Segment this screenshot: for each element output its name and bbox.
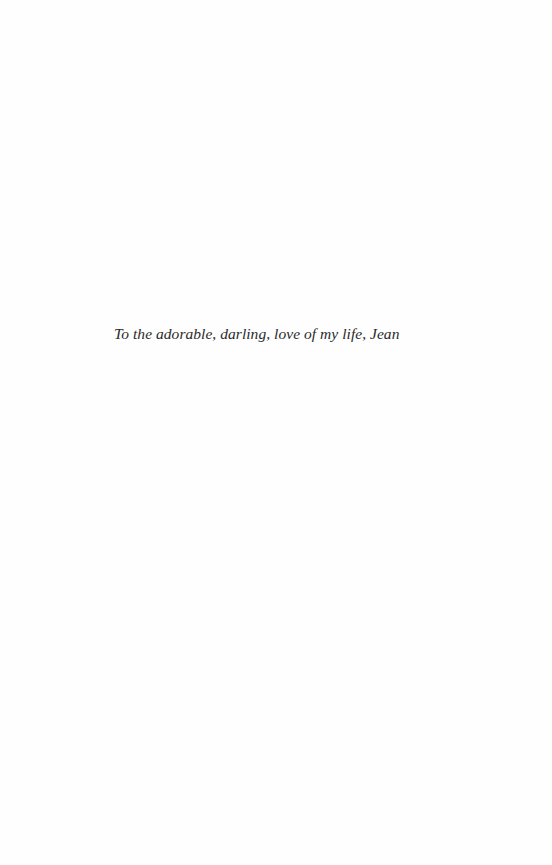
dedication-text: To the adorable, darling, love of my lif… (114, 324, 414, 344)
book-page: To the adorable, darling, love of my lif… (0, 0, 552, 865)
